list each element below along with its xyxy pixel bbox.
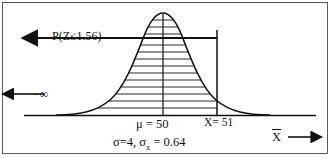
sigma-label-suffix: = 0.64 <box>150 135 185 149</box>
probability-label: P(Z≤1.56) <box>52 30 102 42</box>
normal-distribution-figure: P(Z≤1.56) −∞ μ = 50 X= 51 σ=4, σx = 0.64… <box>0 0 332 158</box>
cutoff-label-value: = 51 <box>212 116 233 128</box>
negative-infinity-label: −∞ <box>33 88 48 100</box>
mean-label: μ = 50 <box>136 118 169 131</box>
sigma-label: σ=4, σx = 0.64 <box>113 136 185 151</box>
x-axis-label: X <box>272 131 281 144</box>
cutoff-label: X= 51 <box>204 117 233 129</box>
sigma-label-prefix: σ=4, σ <box>113 135 146 149</box>
